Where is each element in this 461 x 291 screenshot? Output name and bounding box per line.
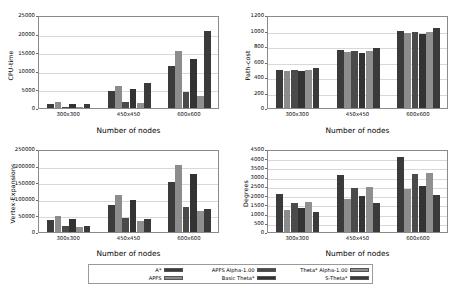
y-axis-tick-label: 4500 [231,147,264,152]
legend-item-label: APFS Alpha-1.00 [212,267,255,273]
y-axis-tick-mark [36,72,38,73]
legend-color-swatch [164,276,183,280]
y-axis-tick-mark [265,47,267,48]
legend-item: Basic Theta* [185,274,276,281]
legend-item: S-Theta* [278,274,369,281]
y-axis-tick-mark [265,78,267,79]
plot-area-degrees [267,150,448,233]
grid-line [268,169,447,170]
bar [204,31,211,108]
bar [62,226,69,232]
grid-line [39,168,218,169]
grid-line [39,54,218,55]
bar [137,221,144,232]
y-axis-tick-mark [265,215,267,216]
x-axis-title: Number of nodes [38,126,219,135]
x-axis-title: Number of nodes [267,249,448,258]
y-axis-tick-label: 0 [231,230,264,235]
y-axis-tick-mark [36,53,38,54]
y-axis-tick-label: 250000 [2,147,35,152]
x-axis-tick-label: 450x450 [327,236,387,241]
x-axis-tick-label: 600x600 [159,236,219,241]
panel-path-cost: Path-cost Number of nodes 02004006008001… [231,4,461,139]
grid-line [39,36,218,37]
y-axis-tick-label: 800 [231,44,264,49]
bar [419,34,426,108]
y-axis-tick-mark [265,187,267,188]
bar [55,102,62,108]
legend-item: APFS [92,274,183,281]
y-axis-tick-label: 1200 [231,13,264,18]
y-axis-tick-label: 2000 [231,194,264,199]
bar [175,51,182,108]
bar [284,210,291,232]
bar [433,195,440,232]
legend: A*APFSAPFS Alpha-1.00Basic Theta*Theta* … [88,264,373,284]
grid-line [268,160,447,161]
bar [204,209,211,232]
bar [276,70,283,108]
bar [412,174,419,232]
legend-item-label: S-Theta* [325,275,347,281]
legend-item-label: Theta* Alpha-1.00 [300,267,347,273]
bar [62,107,69,108]
y-axis-tick-mark [36,150,38,151]
y-axis-tick-mark [265,63,267,64]
plot-area-cpu-time [38,16,219,109]
bar [359,53,366,108]
x-axis-tick-label: 300x300 [38,112,98,117]
legend-item-label: APFS [149,275,162,281]
legend-color-swatch [350,268,369,272]
bar [404,189,411,232]
y-axis-tick-mark [265,94,267,95]
y-axis-tick-mark [265,159,267,160]
bar [76,107,83,108]
y-axis-tick-label: 1000 [231,29,264,34]
bar [69,219,76,232]
bar [276,194,283,232]
bar [373,48,380,108]
y-axis-tick-mark [265,150,267,151]
bar [373,203,380,232]
x-axis-tick-label: 450x450 [98,112,158,117]
y-axis-tick-label: 200000 [2,164,35,169]
y-axis-tick-label: 5000 [2,88,35,93]
bar [291,70,298,108]
bar [137,103,144,108]
x-axis-title: Number of nodes [267,126,448,135]
bar [426,32,433,108]
bar [130,89,137,108]
y-axis-tick-label: 20000 [2,32,35,37]
y-axis-tick-mark [36,35,38,36]
y-axis-tick-label: 0 [2,230,35,235]
y-axis-tick-mark [36,200,38,201]
legend-color-swatch [350,276,369,280]
bar [419,186,426,232]
bar [298,71,305,108]
legend-item: APFS Alpha-1.00 [185,267,276,274]
bar [305,202,312,232]
bar [69,104,76,108]
bar [168,66,175,108]
bar [404,33,411,108]
y-axis-tick-mark [36,233,38,234]
x-axis-tick-label: 300x300 [267,112,327,117]
y-axis-tick-label: 2500 [231,184,264,189]
y-axis-tick-mark [265,233,267,234]
y-axis-tick-mark [265,178,267,179]
y-axis-tick-mark [265,168,267,169]
y-axis-tick-label: 500 [231,221,264,226]
y-axis-tick-mark [36,216,38,217]
bar [397,31,404,108]
x-axis-title: Number of nodes [38,249,219,258]
bar [144,83,151,108]
bar [84,104,91,108]
bar [76,227,83,232]
x-axis-tick-label: 600x600 [159,112,219,117]
bar [313,68,320,108]
legend-item: Theta* Alpha-1.00 [278,267,369,274]
bar [366,187,373,232]
bar [197,96,204,108]
figure-canvas: CPU-time Number of nodes 050001000015000… [0,0,461,291]
y-axis-tick-mark [265,32,267,33]
